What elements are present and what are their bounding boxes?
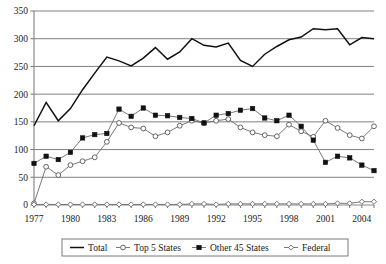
legend-label-total: Total (88, 243, 108, 253)
point-other-45-states-1995 (250, 106, 254, 110)
point-top-5-states-2005 (372, 124, 377, 129)
point-federal-1992 (214, 202, 219, 207)
point-top-5-states-1995 (250, 130, 255, 135)
x-axis-label-1980: 1980 (61, 214, 80, 224)
point-federal-1980 (68, 202, 73, 207)
point-top-5-states-1979 (56, 173, 61, 178)
y-axis-label-200: 200 (14, 90, 29, 100)
point-other-45-states-2005 (372, 168, 376, 172)
legend-label-top-5-states: Top 5 States (134, 243, 181, 253)
series-line-total (34, 29, 374, 126)
point-top-5-states-2002 (335, 126, 340, 131)
point-other-45-states-2003 (348, 156, 352, 160)
point-other-45-states-1991 (202, 121, 206, 125)
point-other-45-states-1982 (93, 132, 97, 136)
point-top-5-states-2004 (359, 136, 364, 141)
point-top-5-states-1993 (226, 117, 231, 122)
x-axis-label-1995: 1995 (243, 214, 262, 224)
point-other-45-states-1988 (165, 114, 169, 118)
point-other-45-states-1978 (44, 154, 48, 158)
point-other-45-states-1977 (32, 161, 36, 165)
point-other-45-states-1999 (299, 124, 303, 128)
point-federal-1986 (141, 202, 146, 207)
legend-marker-3 (288, 245, 293, 250)
point-federal-1999 (299, 201, 304, 206)
point-other-45-states-1992 (214, 113, 218, 117)
x-axis-label-2004: 2004 (352, 214, 371, 224)
point-other-45-states-1990 (190, 116, 194, 120)
point-top-5-states-1984 (117, 121, 122, 126)
y-axis-label-300: 300 (14, 34, 29, 44)
point-federal-2001 (323, 201, 328, 206)
point-top-5-states-1978 (44, 164, 49, 169)
point-top-5-states-1985 (129, 125, 134, 130)
point-other-45-states-1984 (117, 107, 121, 111)
point-top-5-states-1981 (80, 159, 85, 164)
point-top-5-states-1997 (274, 134, 279, 139)
point-top-5-states-1987 (153, 134, 158, 139)
point-other-45-states-1985 (129, 114, 133, 118)
point-federal-1994 (238, 201, 243, 206)
x-axis-label-1977: 1977 (25, 214, 44, 224)
y-axis-label-350: 350 (14, 6, 29, 16)
x-axis-label-1989: 1989 (170, 214, 189, 224)
point-federal-1983 (104, 202, 109, 207)
point-top-5-states-1999 (299, 129, 304, 134)
legend-marker-1 (121, 245, 126, 250)
point-other-45-states-2000 (311, 138, 315, 142)
x-axis-label-2001: 2001 (316, 214, 335, 224)
point-federal-1997 (274, 201, 279, 206)
point-other-45-states-1998 (287, 113, 291, 117)
point-other-45-states-1983 (105, 131, 109, 135)
legend-label-other-45-states: Other 45 States (210, 243, 269, 253)
y-axis-label-250: 250 (14, 62, 29, 72)
point-federal-1982 (92, 202, 97, 207)
point-federal-1989 (177, 202, 182, 207)
point-other-45-states-1981 (80, 136, 84, 140)
point-federal-1978 (44, 202, 49, 207)
point-federal-1995 (250, 201, 255, 206)
point-federal-1987 (153, 202, 158, 207)
point-other-45-states-1986 (141, 106, 145, 110)
point-other-45-states-1994 (238, 108, 242, 112)
point-top-5-states-1986 (141, 126, 146, 131)
legend-marker-2 (197, 245, 201, 249)
point-federal-1984 (116, 202, 121, 207)
point-top-5-states-1992 (214, 118, 219, 123)
point-other-45-states-1987 (153, 113, 157, 117)
y-axis-label-0: 0 (23, 200, 28, 210)
point-top-5-states-1994 (238, 125, 243, 130)
point-top-5-states-2003 (347, 133, 352, 138)
point-federal-1981 (80, 202, 85, 207)
point-other-45-states-1989 (178, 115, 182, 119)
point-top-5-states-1998 (287, 122, 292, 127)
point-federal-1993 (226, 201, 231, 206)
point-other-45-states-1996 (263, 116, 267, 120)
chart-container: 0501001502002503003501977198019831986198… (0, 0, 386, 264)
y-axis-label-50: 50 (19, 173, 29, 183)
point-federal-1979 (56, 202, 61, 207)
point-other-45-states-1997 (275, 119, 279, 123)
point-other-45-states-2004 (360, 163, 364, 167)
point-federal-1988 (165, 202, 170, 207)
line-chart: 0501001502002503003501977198019831986198… (0, 0, 386, 264)
point-federal-2004 (359, 199, 364, 204)
point-top-5-states-1980 (68, 163, 73, 168)
point-federal-1985 (129, 202, 134, 207)
point-top-5-states-1982 (92, 155, 97, 160)
x-axis-label-1992: 1992 (207, 214, 226, 224)
point-top-5-states-1996 (262, 133, 267, 138)
point-other-45-states-2002 (335, 154, 339, 158)
x-axis-label-1998: 1998 (280, 214, 299, 224)
point-federal-1996 (262, 201, 267, 206)
point-other-45-states-1993 (226, 111, 230, 115)
point-federal-2005 (371, 199, 376, 204)
y-axis-label-100: 100 (14, 145, 29, 155)
legend-label-federal: Federal (302, 243, 331, 253)
point-top-5-states-2001 (323, 118, 328, 123)
point-other-45-states-1980 (68, 150, 72, 154)
y-axis-label-150: 150 (14, 117, 29, 127)
point-federal-1990 (189, 201, 194, 206)
point-federal-1991 (201, 201, 206, 206)
x-axis-label-1986: 1986 (134, 214, 153, 224)
